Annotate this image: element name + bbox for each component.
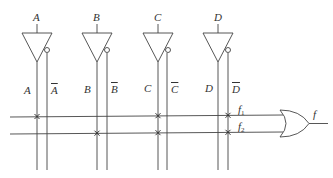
or-gate xyxy=(280,110,309,137)
buffer-inverter-gate-d xyxy=(203,24,233,170)
buffer-inverter-gate-b xyxy=(82,24,112,170)
product-label-f2: f2 xyxy=(238,121,245,134)
rail-label-a-bar: A xyxy=(51,85,58,96)
rail-label-b-bar: B xyxy=(111,84,118,95)
input-label-c: C xyxy=(154,12,161,23)
input-label-b: B xyxy=(93,12,100,23)
rail-label-d-bar: D xyxy=(232,84,240,95)
rail-label-a: A xyxy=(24,85,31,96)
rail-label-b: B xyxy=(84,84,91,95)
rail-label-c: C xyxy=(144,83,151,94)
rail-label-c-bar: C xyxy=(171,84,178,95)
buffer-inverter-gate-c xyxy=(143,24,173,170)
output-label-f: f xyxy=(313,109,316,120)
input-label-d: D xyxy=(214,12,222,23)
product-label-f1: f1 xyxy=(238,104,245,117)
rail-label-d: D xyxy=(205,83,213,94)
buffer-inverter-gate-a xyxy=(22,24,52,170)
diagram-graphics xyxy=(0,0,333,178)
input-label-a: A xyxy=(33,12,40,23)
pla-diagram: A B C D A A B B C C D D f1 f2 f xyxy=(0,0,333,178)
